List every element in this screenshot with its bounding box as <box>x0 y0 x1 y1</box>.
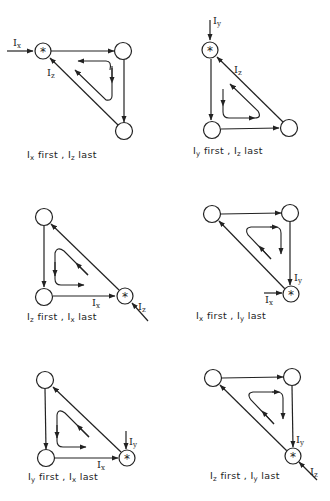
right-label: Iy <box>294 272 302 285</box>
node-bottom-right <box>116 123 133 140</box>
node-bottom-left <box>38 450 55 467</box>
input-label: Iy <box>129 436 137 449</box>
node-bottom-left <box>204 122 221 139</box>
edge-diagonal <box>217 57 283 122</box>
caption: Ix first , Iz last <box>27 149 97 162</box>
loop-body <box>75 66 112 100</box>
edge-right <box>292 386 293 447</box>
loop-lower <box>55 262 84 285</box>
loop-upper <box>57 411 89 438</box>
diagonal-label: Iz <box>47 67 55 80</box>
node-bottom-right <box>281 120 298 137</box>
input-label: Iy <box>213 15 221 28</box>
node-top-left <box>36 209 53 226</box>
edge-top <box>222 377 283 378</box>
edge-diagonal <box>53 387 121 452</box>
edge-diagonal <box>51 224 119 290</box>
node-bottom-left <box>36 289 53 306</box>
input-label: Ix <box>13 37 21 50</box>
right-label: Iy <box>296 434 304 447</box>
loop-diag-arrow <box>264 413 274 424</box>
star-marker: * <box>124 452 130 466</box>
loop-right <box>272 392 283 419</box>
panel-2: Iy Iz * Iy first , Iz last <box>193 15 298 158</box>
loop-bottom <box>223 100 252 118</box>
input-label: Iz <box>310 466 318 479</box>
loop-upper <box>55 249 88 276</box>
star-marker: * <box>207 44 213 58</box>
edge-diagonal <box>219 221 285 289</box>
node-top-right <box>284 369 301 386</box>
loop-diagonal <box>230 84 259 118</box>
loop-diag-arrow <box>261 248 271 259</box>
star-marker: * <box>40 45 46 59</box>
bottom-label: Ix <box>92 297 100 310</box>
edge-bottom <box>221 128 279 129</box>
node-top-left <box>205 370 222 387</box>
loop-diag-arrow <box>79 427 89 437</box>
panel-5: Ix Iy * Iy first , Ix last <box>28 372 137 485</box>
bottom-label: Ix <box>97 459 105 472</box>
caption: Iy first , Ix last <box>28 471 98 484</box>
node-top-left <box>204 206 221 223</box>
panel-1: Ix Iz * Ix first , Iz last <box>7 37 133 162</box>
node-top-left <box>37 372 54 389</box>
edge-left <box>45 389 46 449</box>
panel-4: Iy Ix * Ix first , Iy last <box>196 205 302 324</box>
loop-diag-arrow <box>78 265 88 275</box>
input-label: Ix <box>265 294 273 307</box>
caption: Iz first , Iy last <box>210 470 280 483</box>
node-top-right <box>115 43 132 60</box>
edge-diagonal <box>50 58 118 125</box>
star-marker: * <box>288 288 294 302</box>
triangle-flow-diagrams: Ix Iz * Ix first , Iz last Iy Iz * Iy fi… <box>0 0 330 501</box>
caption: Iz first , Ix last <box>27 311 97 324</box>
edge-diagonal <box>220 385 287 451</box>
node-top-right <box>282 205 299 222</box>
edge-top <box>221 213 281 214</box>
star-marker: * <box>122 290 128 304</box>
loop-upper <box>249 392 277 424</box>
input-label: Iz <box>138 301 146 314</box>
panel-3: Ix Iz * Iz first , Ix last <box>27 209 148 325</box>
star-marker: * <box>290 450 296 464</box>
panel-6: Iy Iz * Iz first , Iy last <box>205 369 318 484</box>
caption: Ix first , Iy last <box>196 310 266 323</box>
loop-right <box>270 227 281 254</box>
caption: Iy first , Iz last <box>193 145 263 158</box>
loop-top <box>78 61 111 70</box>
loop-lower <box>57 425 86 447</box>
